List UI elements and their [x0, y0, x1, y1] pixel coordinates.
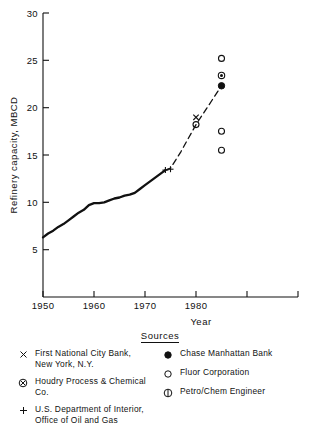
data-point-markers [162, 55, 224, 173]
open-circle-marker-1985-upper [219, 55, 225, 61]
legend-item-chase-manhattan-bank: Chase Manhattan Bank [161, 348, 306, 360]
legend-columns: First National City Bank, New York, N.Y.… [0, 348, 320, 427]
y-tick-label-10: 10 [27, 197, 38, 208]
legend-column-left: First National City Bank, New York, N.Y.… [16, 348, 161, 427]
legend-label-first-national-city-bank: First National City Bank, New York, N.Y. [35, 348, 131, 369]
x-tick-label-1980: 1980 [185, 300, 208, 311]
filled-circle-marker-icon [161, 348, 175, 360]
legend-item-us-department-of-interior: U.S. Department of Interior, Office of O… [16, 404, 161, 425]
y-axis-title: Refinery capacity, MBCD [8, 97, 19, 214]
x-marker-1980 [193, 115, 198, 120]
chart-legend: Sources First National City Bank, New Yo… [0, 330, 320, 417]
open-circle-marker-icon [161, 367, 175, 379]
legend-label-fluor-corporation: Fluor Corporation [180, 367, 249, 378]
x-tick-label-1950: 1950 [32, 300, 55, 311]
x-axis-title: Year [190, 316, 211, 327]
y-tick-label-30: 30 [27, 8, 38, 19]
open-circle-marker-1985-lower [219, 147, 225, 153]
legend-label-chase-manhattan-bank: Chase Manhattan Bank [180, 348, 273, 359]
x-tick-label-1970: 1970 [134, 300, 157, 311]
legend-item-first-national-city-bank: First National City Bank, New York, N.Y. [16, 348, 161, 369]
y-tick-label-5: 5 [32, 244, 38, 255]
x-marker-icon [16, 348, 30, 360]
refinery-capacity-plot: 30 25 20 15 10 5 1950 1960 1970 1980 Yea… [0, 0, 320, 330]
y-tick-label-25: 25 [27, 55, 38, 66]
x-axis-ticks [43, 291, 298, 297]
projected-capacity-curve [165, 86, 221, 170]
legend-column-right: Chase Manhattan Bank Fluor Corporation [161, 348, 306, 427]
plus-marker-1975 [168, 166, 174, 172]
legend-item-petro-chem-engineer: Petro/Chem Engineer [161, 386, 306, 398]
historical-capacity-curve [43, 170, 165, 237]
legend-heading: Sources [0, 330, 320, 341]
x-tick-label-1960: 1960 [83, 300, 106, 311]
y-tick-label-15: 15 [27, 150, 38, 161]
y-axis-ticks [43, 13, 49, 250]
legend-label-houdry-process: Houdry Process & Chemical Co. [35, 376, 161, 397]
legend-item-houdry-process: Houdry Process & Chemical Co. [16, 376, 161, 397]
y-tick-label-20: 20 [27, 102, 38, 113]
open-circle-marker-1985-mid [219, 128, 225, 134]
circled-bar-marker-icon [161, 386, 175, 398]
circled-cross-marker-icon [16, 376, 30, 388]
plus-marker-icon [16, 404, 30, 416]
circled-dot-marker-1985 [218, 72, 224, 78]
legend-item-fluor-corporation: Fluor Corporation [161, 367, 306, 379]
legend-label-petro-chem-engineer: Petro/Chem Engineer [180, 386, 265, 397]
legend-heading-text: Sources [141, 330, 179, 343]
filled-circle-marker-1985 [218, 83, 224, 89]
legend-label-us-department-of-interior: U.S. Department of Interior, Office of O… [35, 404, 144, 425]
